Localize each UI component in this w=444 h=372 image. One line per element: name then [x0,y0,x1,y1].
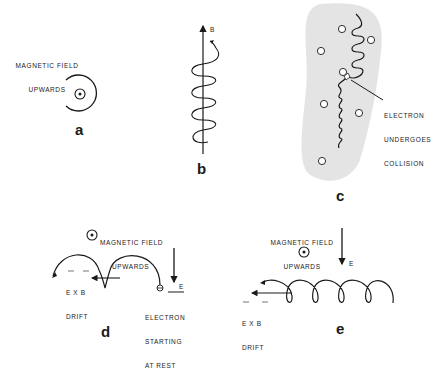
panel-b-helix [192,26,219,154]
panel-letter-a: a [75,121,83,138]
start-label-line: ELECTRON [145,314,185,322]
panel-e-drift-label: E X B DRIFT [242,304,264,360]
drift-label-line: DRIFT [242,344,264,352]
panel-c-plasma [302,3,384,181]
drift-label-line: E X B [66,289,88,297]
field-label-line: MAGNETIC FIELD [100,239,163,247]
panel-e-efield-label: E [349,260,354,268]
collision-annotation: ELECTRON UNDERGOES COLLISION [384,96,431,176]
panel-e-field-label: MAGNETIC FIELD UPWARDS [262,223,342,279]
start-label-line: AT REST [145,362,185,370]
annotation-line: COLLISION [384,160,431,168]
field-label-line: MAGNETIC FIELD [262,239,342,247]
panel-letter-e: e [336,320,344,337]
field-label-line: UPWARDS [100,263,163,271]
panel-letter-d: d [101,323,110,340]
annotation-line: ELECTRON [384,112,431,120]
panel-d-drift-label: E X B DRIFT [66,273,88,329]
field-label-line: UPWARDS [12,86,82,94]
field-label-line: UPWARDS [262,263,342,271]
panel-d-efield-label: E [179,283,184,291]
field-label-line: MAGNETIC FIELD [12,62,82,70]
panel-a-field-label: MAGNETIC FIELD UPWARDS [12,46,82,102]
panel-letter-b: b [197,160,206,177]
b-field-label: B [210,26,215,34]
panel-d-field-label: MAGNETIC FIELD UPWARDS [100,223,163,279]
panel-letter-c: c [336,187,344,204]
drift-label-line: E X B [242,320,264,328]
annotation-line: UNDERGOES [384,136,431,144]
electron-start-label: ELECTRON STARTING AT REST [145,298,185,372]
start-label-line: STARTING [145,338,185,346]
drift-label-line: DRIFT [66,313,88,321]
